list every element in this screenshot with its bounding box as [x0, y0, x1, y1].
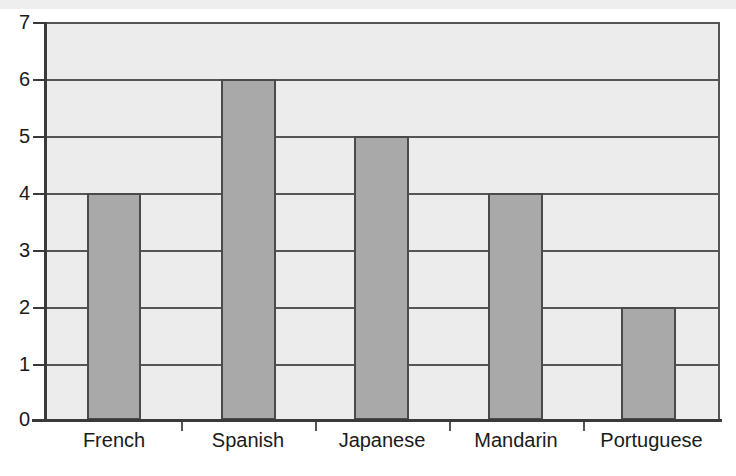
y-tick-label-4: 4	[4, 183, 30, 203]
gridline-6	[46, 79, 720, 81]
x-axis-line	[32, 419, 722, 422]
y-tick-label-3: 3	[4, 240, 30, 260]
x-category-label-spanish: Spanish	[181, 429, 315, 451]
y-tick-label-6: 6	[4, 69, 30, 89]
x-category-label-mandarin: Mandarin	[449, 429, 583, 451]
bar-japanese	[354, 136, 409, 420]
y-tick-label-1: 1	[4, 354, 30, 374]
y-tick-mark-2	[33, 307, 46, 309]
x-category-label-french: French	[47, 429, 181, 451]
y-tick-mark-7	[33, 22, 46, 24]
y-tick-label-0: 0	[4, 409, 30, 429]
y-tick-label-5: 5	[4, 126, 30, 146]
y-axis-line	[44, 22, 47, 422]
plot-border-right	[718, 22, 720, 422]
plot-border-top	[46, 22, 720, 24]
bar-spanish	[221, 79, 276, 420]
page-canvas: 7 6 5 4 3 2 1 0 French Spanish Japanese …	[0, 0, 736, 476]
y-tick-mark-5	[33, 136, 46, 138]
bar-mandarin	[488, 193, 543, 420]
y-tick-label-2: 2	[4, 297, 30, 317]
x-category-label-portuguese: Portuguese	[583, 429, 720, 451]
y-tick-mark-6	[33, 79, 46, 81]
y-tick-mark-0	[33, 419, 46, 421]
y-tick-mark-4	[33, 193, 46, 195]
y-tick-mark-1	[33, 364, 46, 366]
bar-chart: 7 6 5 4 3 2 1 0 French Spanish Japanese …	[0, 0, 736, 476]
bar-portuguese	[621, 307, 676, 420]
y-tick-mark-3	[33, 250, 46, 252]
bar-french	[87, 193, 141, 420]
x-category-label-japanese: Japanese	[315, 429, 449, 451]
y-tick-label-7: 7	[4, 12, 30, 32]
